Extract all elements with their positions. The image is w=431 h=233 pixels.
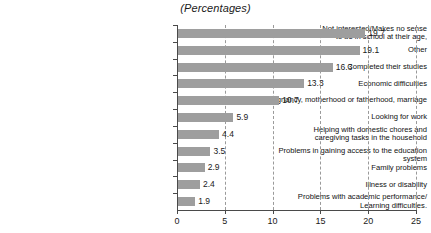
bar-value-label: 13.3: [307, 79, 324, 88]
bar: [177, 63, 333, 72]
bar-value-label: 2.4: [203, 180, 215, 189]
x-axis-tick-label-20: 20: [353, 216, 383, 226]
y-axis-line: [177, 25, 178, 211]
bar: [177, 180, 200, 189]
bar: [177, 197, 195, 206]
x-axis-tick-20: [368, 210, 369, 214]
bar-value-label: 16.3: [336, 63, 353, 72]
gridline-25: [416, 25, 417, 210]
bar: [177, 163, 205, 172]
bar: [177, 113, 233, 122]
x-axis-tick-15: [320, 210, 321, 214]
bar-value-label: 19.1: [363, 46, 380, 55]
bar-value-label: 5.9: [236, 113, 248, 122]
x-axis-tick-10: [273, 210, 274, 214]
bar: [177, 147, 210, 156]
x-axis-tick-label-25: 25: [401, 216, 431, 226]
bar-value-label: 4.4: [222, 130, 234, 139]
bar: [177, 79, 304, 88]
x-axis-tick-label-10: 10: [258, 216, 288, 226]
bar-value-label: 2.9: [208, 163, 220, 172]
bar-value-label: 19.7: [368, 29, 385, 38]
chart-title: (Percentages): [0, 2, 431, 14]
x-axis-tick-label-5: 5: [210, 216, 240, 226]
x-axis-tick-0: [177, 210, 178, 214]
x-axis-tick-5: [225, 210, 226, 214]
percentages-bar-chart: (Percentages) Not interested/Makes no se…: [0, 0, 431, 233]
bar-value-label: 10.7: [282, 96, 299, 105]
bar-value-label: 3.5: [213, 147, 225, 156]
bar-value-label: 1.9: [198, 197, 210, 206]
bar: [177, 130, 219, 139]
x-axis-line: [177, 210, 417, 211]
x-axis-tick-25: [416, 210, 417, 214]
bar: [177, 96, 279, 105]
x-axis-tick-label-15: 15: [305, 216, 335, 226]
bar: [177, 29, 365, 38]
bar: [177, 46, 360, 55]
x-axis-tick-label-0: 0: [162, 216, 192, 226]
